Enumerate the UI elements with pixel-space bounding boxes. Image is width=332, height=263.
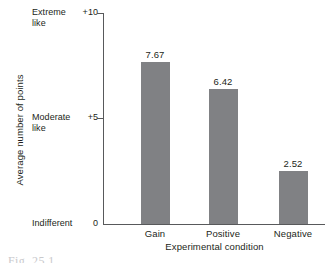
bar-gain: [141, 62, 170, 224]
y-axis-tick-mark-10: [97, 13, 103, 14]
y-axis-title: Average number of points: [13, 42, 27, 218]
bar-value-label-gain: 7.67: [132, 49, 178, 60]
bar-value-label-negative: 2.52: [270, 158, 316, 169]
y-axis-tick-label-5: +5: [62, 112, 98, 123]
x-axis-title: Experimental condition: [104, 241, 325, 253]
x-axis-category-gain: Gain: [124, 228, 186, 240]
plot-area: 7.67 6.42 2.52: [104, 13, 325, 224]
bar-positive: [209, 89, 238, 224]
bar-value-label-positive: 6.42: [200, 76, 246, 87]
x-axis-category-positive: Positive: [192, 228, 254, 240]
figure-caption-partial: Fig. 25.1: [8, 255, 158, 263]
y-axis-tick-label-10: +10: [62, 7, 98, 18]
y-axis-tick-label-0: 0: [62, 218, 98, 229]
x-axis-category-negative: Negative: [262, 228, 324, 240]
bar-chart-figure: Average number of points Extreme like Mo…: [0, 0, 332, 263]
x-axis-line: [103, 224, 325, 225]
bar-negative: [279, 171, 308, 224]
y-axis-tick-mark-5: [97, 118, 103, 119]
